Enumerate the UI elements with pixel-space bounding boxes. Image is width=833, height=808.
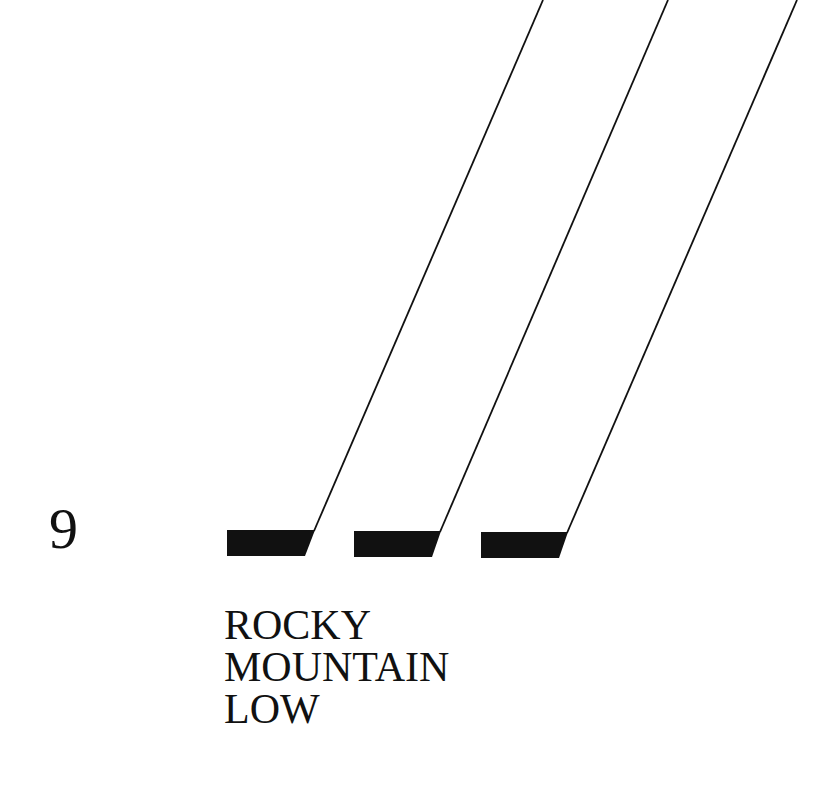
bar-3 <box>481 532 568 558</box>
skewed-bars <box>227 0 797 558</box>
bar-2 <box>354 531 441 557</box>
title-line-3: LOW <box>224 688 449 730</box>
diagonal-line-1 <box>314 0 543 531</box>
bar-1 <box>227 530 315 556</box>
title-line-2: MOUNTAIN <box>224 646 449 688</box>
diagonal-line-3 <box>567 0 797 533</box>
title-label: ROCKY MOUNTAIN LOW <box>224 604 449 730</box>
title-line-1: ROCKY <box>224 604 449 646</box>
diagonal-line-2 <box>440 0 668 532</box>
number-label: 9 <box>49 500 78 558</box>
